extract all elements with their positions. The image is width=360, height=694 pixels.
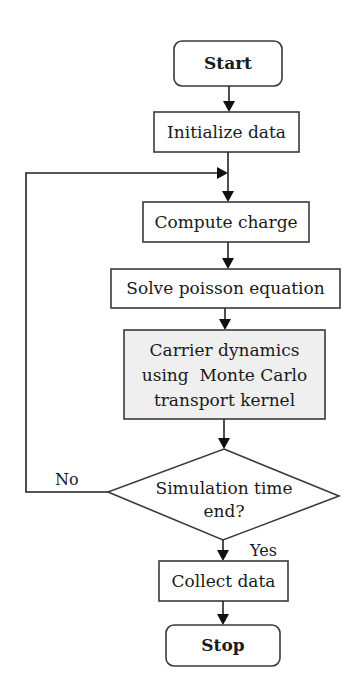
solve-node: Solve poisson equation [111,269,340,308]
initialize-node: Initialize data [154,112,299,152]
start-node: Start [174,41,282,86]
yes-branch-label: Yes [249,541,277,560]
collect-label: Collect data [172,571,276,591]
solve-label: Solve poisson equation [126,278,325,298]
arrowhead-icon [218,438,230,449]
arrow-solve-to-carrier [219,308,231,330]
arrowhead-icon [217,167,228,179]
arrow-compute-to-solve [222,242,234,269]
arrow-collect-to-stop [217,601,229,625]
initialize-label: Initialize data [167,122,286,142]
decision-label-line-1: Simulation time [155,478,292,498]
carrier-label-line-3: transport kernel [154,390,295,410]
carrier-label-line-2: using Monte Carlo [142,365,308,385]
carrier-label-line-1: Carrier dynamics [150,340,300,360]
arrowhead-icon [222,191,234,202]
decision-node: Simulation time end? [108,449,339,540]
collect-node: Collect data [159,561,288,601]
arrowhead-icon [217,614,229,625]
carrier-node: Carrier dynamics using Monte Carlo trans… [124,330,325,419]
stop-node: Stop [166,625,280,666]
no-branch-label: No [55,470,79,489]
start-label: Start [204,53,252,73]
arrow-decision-to-collect [217,540,229,561]
arrowhead-icon [219,319,231,330]
arrowhead-icon [223,101,235,112]
arrowhead-icon [222,258,234,269]
arrowhead-icon [217,550,229,561]
arrow-initialize-to-compute [222,152,234,202]
arrow-start-to-initialize [223,86,235,112]
decision-label-line-2: end? [203,501,244,521]
flowchart: Start Initialize data Compute charge Sol… [0,0,360,694]
compute-node: Compute charge [143,202,309,242]
stop-label: Stop [201,635,244,655]
compute-label: Compute charge [154,212,297,232]
arrow-carrier-to-decision [218,419,230,449]
